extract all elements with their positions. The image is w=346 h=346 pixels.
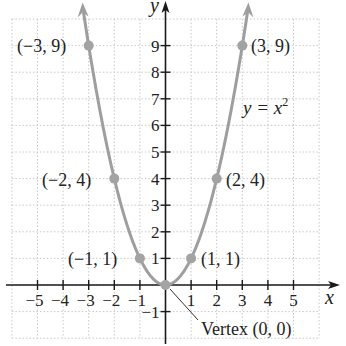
y-tick-label: 4 (151, 170, 160, 189)
x-tick-label: −4 (51, 291, 70, 310)
y-tick-label: 7 (151, 90, 160, 109)
x-tick-label: −5 (25, 291, 43, 310)
data-point-marker (161, 280, 171, 290)
equation-exponent: 2 (282, 95, 288, 109)
point-label-neg2-4: (−2, 4) (42, 170, 91, 191)
point-label-1-1: (1, 1) (201, 249, 240, 270)
equation-lhs: y = x (241, 97, 283, 118)
data-point-marker (84, 41, 94, 51)
x-tick-label: 2 (212, 291, 221, 310)
point-label-3-9: (3, 9) (251, 36, 290, 57)
x-axis-label: x (324, 286, 334, 308)
data-point-marker (186, 253, 196, 263)
y-tick-label: 6 (151, 116, 160, 135)
y-tick-label: 2 (151, 223, 160, 242)
x-tick-label: 3 (238, 291, 247, 310)
y-tick-label: 1 (151, 249, 160, 268)
x-tick-label: 5 (289, 291, 298, 310)
y-tick-label: 3 (151, 196, 160, 215)
x-tick-label: −2 (102, 291, 120, 310)
y-tick-label: −1 (141, 303, 159, 322)
data-point-marker (212, 174, 222, 184)
data-point-marker (135, 253, 145, 263)
x-tick-label: −3 (77, 291, 95, 310)
point-label-2-4: (2, 4) (226, 170, 265, 191)
y-tick-label: 8 (151, 63, 160, 82)
point-label-neg3-9: (−3, 9) (17, 36, 66, 57)
point-label-neg1-1: (−1, 1) (68, 249, 117, 270)
x-tick-label: 4 (264, 291, 273, 310)
y-tick-label: 5 (151, 143, 160, 162)
equation-label: y = x2 (241, 95, 288, 118)
x-tick-label: 1 (187, 291, 196, 310)
vertex-label: Vertex (0, 0) (201, 319, 291, 340)
y-axis-label: y (148, 0, 159, 17)
parabola-chart: −5−4−3−2−112345123456789−1 y x (−3, 9) (… (0, 0, 346, 346)
data-point-marker (109, 174, 119, 184)
y-tick-label: 9 (151, 37, 160, 56)
data-point-marker (237, 41, 247, 51)
